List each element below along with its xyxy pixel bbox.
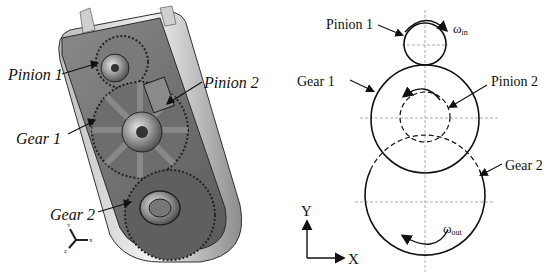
axis-label-y: Y bbox=[301, 203, 312, 219]
cad-label-gear2: Gear 2 bbox=[50, 206, 95, 223]
pinion1-circle bbox=[404, 23, 446, 65]
svg-text:Z: Z bbox=[64, 249, 67, 254]
gear-schematic-panel: Pinion 1 Gear 1 Pinion 2 Gear 2 ωin ωout… bbox=[275, 0, 550, 274]
schematic-leaders bbox=[350, 25, 502, 175]
gear2-render bbox=[125, 170, 215, 260]
pinion2-rotation-arrow-icon bbox=[404, 89, 440, 100]
svg-text:Y: Y bbox=[67, 223, 71, 228]
pinion1-render bbox=[96, 36, 148, 88]
cad-label-pinion1: Pinion 1 bbox=[7, 66, 63, 83]
coordinate-triad-icon: Y X Z bbox=[64, 223, 93, 254]
svg-text:X: X bbox=[89, 238, 93, 243]
gearbox-render: Pinion 1 Pinion 2 Gear 1 Gear 2 Y X Z bbox=[0, 0, 275, 274]
gear-schematic: Pinion 1 Gear 1 Pinion 2 Gear 2 ωin ωout… bbox=[275, 0, 550, 274]
omega-out-arrow-icon bbox=[403, 230, 448, 244]
cad-label-gear1: Gear 1 bbox=[16, 130, 61, 147]
xy-axes: Y X bbox=[301, 203, 359, 267]
label-pinion1: Pinion 1 bbox=[326, 17, 373, 32]
cad-label-pinion2: Pinion 2 bbox=[203, 74, 259, 91]
label-omega-in: ωin bbox=[453, 21, 468, 37]
label-gear1: Gear 1 bbox=[297, 74, 335, 89]
axis-label-x: X bbox=[348, 251, 359, 267]
centerlines bbox=[355, 10, 500, 272]
label-omega-out: ωout bbox=[443, 221, 463, 237]
cad-render-panel: Pinion 1 Pinion 2 Gear 1 Gear 2 Y X Z bbox=[0, 0, 275, 274]
gear1-render bbox=[92, 82, 188, 178]
label-pinion2: Pinion 2 bbox=[491, 74, 538, 89]
label-gear2: Gear 2 bbox=[505, 158, 543, 173]
